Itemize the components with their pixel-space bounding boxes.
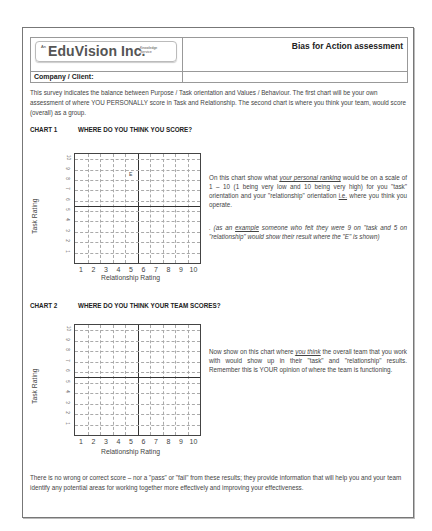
- chart1-example-mark: E: [129, 171, 132, 177]
- x-tick-label: 8: [167, 266, 171, 273]
- grid-horizontal-line: [75, 383, 200, 384]
- chart2-desc-text: Now show on this chart where: [209, 348, 295, 355]
- logo-tagline-2: Service: [140, 50, 152, 54]
- x-tick-label: 9: [179, 266, 183, 273]
- grid-horizontal-line: [75, 351, 200, 352]
- y-tick-label: 8: [65, 177, 70, 180]
- y-tick-label: 1: [65, 250, 70, 253]
- grid-horizontal-line: [75, 242, 200, 243]
- x-tick-label: 3: [104, 266, 108, 273]
- grid-horizontal-line: [75, 404, 200, 405]
- x-tick-label: 1: [79, 438, 83, 445]
- y-tick-label: 3: [65, 229, 70, 232]
- chart2-y-axis-label: Task Rating: [31, 368, 38, 404]
- grid-horizontal-line: [75, 330, 200, 331]
- chart2-question: WHERE DO YOU THINK YOUR TEAM SCORES?: [78, 302, 221, 309]
- chart1-example-note: . (as an example someone who felt they w…: [209, 223, 407, 241]
- chart1-heading: CHART 1WHERE DO YOU THINK YOU SCORE?: [30, 126, 192, 133]
- y-tick-label: 7: [65, 359, 70, 362]
- x-tick-label: 6: [142, 438, 146, 445]
- header-divider: [182, 38, 183, 82]
- y-tick-label: 8: [65, 348, 70, 351]
- x-tick-label: 7: [154, 438, 158, 445]
- center-horizontal-line: [75, 377, 200, 378]
- company-logo: An EduVision Inc. Knowledge Service: [35, 41, 177, 62]
- chart1-desc-ie: i.e.: [339, 192, 347, 199]
- y-tick-label: 5: [65, 208, 70, 211]
- example-text: . (as an: [209, 224, 235, 231]
- grid-horizontal-line: [75, 170, 200, 171]
- y-tick-label: 1: [65, 422, 70, 425]
- chart2-x-axis-label: Relationship Rating: [101, 448, 160, 455]
- x-tick-label: 2: [92, 266, 96, 273]
- x-tick-label: 6: [142, 266, 146, 273]
- grid-horizontal-line: [75, 190, 200, 191]
- x-tick-label: 2: [92, 438, 96, 445]
- intro-paragraph: This survey indicates the balance betwee…: [30, 88, 408, 118]
- y-tick-label: 2: [65, 411, 70, 414]
- chart1-desc-emphasis: your personal ranking: [280, 174, 341, 181]
- grid-horizontal-line: [75, 253, 200, 254]
- x-tick-label: 9: [179, 438, 183, 445]
- chart2-number: CHART 2: [30, 302, 78, 309]
- y-tick-label: 3: [65, 401, 70, 404]
- chart1-question: WHERE DO YOU THINK YOU SCORE?: [78, 126, 192, 133]
- logo-name: EduVision Inc.: [48, 43, 146, 59]
- x-tick-label: 4: [117, 438, 121, 445]
- chart1-y-axis-label: Task Rating: [31, 198, 38, 234]
- grid-horizontal-line: [75, 232, 200, 233]
- y-tick-label: 5: [65, 380, 70, 383]
- grid-horizontal-line: [75, 221, 200, 222]
- y-tick-label: 9: [65, 167, 70, 170]
- grid-horizontal-line: [75, 414, 200, 415]
- grid-horizontal-line: [75, 211, 200, 212]
- example-emphasis: example: [235, 224, 259, 231]
- chart1-description: On this chart show what your personal ra…: [209, 173, 407, 209]
- chart1-grid[interactable]: E: [74, 153, 201, 264]
- center-horizontal-line: [75, 206, 200, 207]
- grid-horizontal-line: [75, 393, 200, 394]
- y-tick-label: 4: [65, 390, 70, 393]
- footer-paragraph: There is no wrong or correct score – nor…: [30, 473, 408, 493]
- x-tick-label: 10: [190, 438, 198, 445]
- chart1-desc-text: On this chart show what: [209, 174, 280, 181]
- x-tick-label: 1: [79, 266, 83, 273]
- grid-horizontal-line: [75, 362, 200, 363]
- grid-horizontal-line: [75, 159, 200, 160]
- x-tick-label: 8: [167, 438, 171, 445]
- header-table: An EduVision Inc. Knowledge Service Bias…: [30, 37, 408, 83]
- y-tick-label: 6: [65, 198, 70, 201]
- grid-horizontal-line: [75, 201, 200, 202]
- y-tick-label: 9: [65, 338, 70, 341]
- grid-horizontal-line: [75, 341, 200, 342]
- grid-horizontal-line: [75, 372, 200, 373]
- x-tick-label: 5: [129, 266, 133, 273]
- y-tick-label: 10: [66, 326, 71, 331]
- chart2-heading: CHART 2WHERE DO YOU THINK YOUR TEAM SCOR…: [30, 302, 221, 309]
- header-row-divider: [31, 71, 407, 72]
- chart1-number: CHART 1: [30, 126, 78, 133]
- chart2-desc-emphasis: you think: [295, 348, 320, 355]
- y-tick-label: 6: [65, 369, 70, 372]
- company-client-label: Company / Client:: [34, 73, 94, 80]
- x-tick-label: 3: [104, 438, 108, 445]
- x-tick-label: 4: [117, 266, 121, 273]
- x-tick-label: 10: [190, 266, 198, 273]
- x-tick-label: 7: [154, 266, 158, 273]
- chart2-grid[interactable]: [74, 324, 201, 436]
- grid-horizontal-line: [75, 425, 200, 426]
- y-tick-label: 10: [66, 155, 71, 160]
- document-page: An EduVision Inc. Knowledge Service Bias…: [22, 27, 414, 518]
- x-tick-label: 5: [129, 438, 133, 445]
- y-tick-label: 4: [65, 219, 70, 222]
- document-title: Bias for Action assessment: [292, 41, 403, 51]
- logo-prefix: An: [41, 44, 46, 49]
- y-tick-label: 7: [65, 188, 70, 191]
- grid-horizontal-line: [75, 180, 200, 181]
- chart1-x-axis-label: Relationship Rating: [101, 274, 160, 281]
- y-tick-label: 2: [65, 239, 70, 242]
- logo-tagline: Knowledge Service: [140, 46, 157, 54]
- chart2-description: Now show on this chart where you think t…: [209, 347, 407, 374]
